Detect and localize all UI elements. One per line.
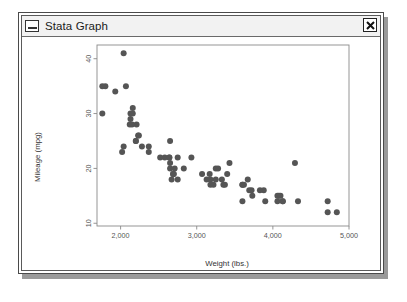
scatter-point — [226, 160, 232, 166]
x-tick-label: 3,000 — [188, 231, 206, 240]
y-tick-label: 10 — [84, 219, 93, 227]
scatter-point — [99, 111, 105, 117]
scatter-point — [130, 111, 136, 117]
scatter-point — [210, 182, 216, 188]
y-axis-ticks: 10203040 — [84, 55, 97, 228]
scatter-point — [280, 198, 286, 204]
y-tick-label: 20 — [84, 164, 93, 172]
scatter-point — [215, 165, 221, 171]
y-tick-label: 30 — [84, 110, 93, 118]
x-axis-ticks: 2,0003,0004,0005,000 — [112, 226, 358, 240]
title-bar[interactable]: Stata Graph — [22, 16, 380, 37]
scatter-point — [175, 176, 181, 182]
graph-canvas: Mileage (mpg) Weight (lbs.) 10203040 2,0… — [22, 37, 380, 270]
close-button[interactable] — [363, 18, 377, 32]
scatter-point — [325, 198, 331, 204]
scatter-point — [292, 160, 298, 166]
x-tick-label: 2,000 — [112, 231, 130, 240]
scatter-point — [334, 209, 340, 215]
x-axis-title: Weight (lbs.) — [205, 259, 249, 268]
scatter-point — [171, 171, 177, 177]
scatter-point — [136, 133, 142, 139]
scatter-point — [241, 182, 247, 188]
scatter-plot: Mileage (mpg) Weight (lbs.) 10203040 2,0… — [22, 37, 380, 270]
minimize-bar-glyph — [28, 27, 37, 29]
scatter-point — [213, 176, 219, 182]
scatter-point — [166, 154, 172, 160]
scatter-point — [157, 154, 163, 160]
scatter-point — [262, 198, 268, 204]
plot-frame — [97, 45, 349, 226]
window-title: Stata Graph — [45, 20, 108, 32]
scatter-point — [112, 89, 118, 95]
scatter-point — [123, 83, 129, 89]
window-inner-frame: Stata Graph Mileage (mpg) Weight (lbs.) … — [21, 15, 381, 271]
scatter-point — [204, 176, 210, 182]
scatter-point — [295, 198, 301, 204]
scatter-point — [199, 171, 205, 177]
y-axis-title: Mileage (mpg) — [33, 132, 42, 182]
scatter-point — [175, 154, 181, 160]
scatter-point — [129, 122, 135, 128]
scatter-point — [146, 149, 152, 155]
scatter-point — [325, 209, 331, 215]
scatter-point — [167, 160, 173, 166]
scatter-point — [130, 105, 136, 111]
scatter-point — [277, 193, 283, 199]
x-tick-label: 5,000 — [340, 231, 358, 240]
scatter-point — [249, 193, 255, 199]
scatter-point — [222, 182, 228, 188]
scatter-point — [133, 138, 139, 144]
scatter-point — [188, 154, 194, 160]
scatter-point — [99, 83, 105, 89]
scatter-point — [274, 198, 280, 204]
scatter-point — [181, 165, 187, 171]
scatter-point — [239, 198, 245, 204]
close-x-icon — [366, 21, 375, 30]
scatter-point — [249, 187, 255, 193]
scatter-point — [219, 176, 225, 182]
scatter-point — [245, 176, 251, 182]
scatter-point — [121, 50, 127, 56]
minimize-box-icon[interactable] — [25, 20, 39, 32]
scatter-point — [139, 143, 145, 149]
y-tick-label: 40 — [84, 55, 93, 63]
scatter-point — [146, 143, 152, 149]
scatter-point — [207, 171, 213, 177]
scatter-point — [121, 143, 127, 149]
scatter-point — [224, 171, 230, 177]
scatter-point — [172, 165, 178, 171]
x-tick-label: 4,000 — [264, 231, 282, 240]
scatter-point — [167, 138, 173, 144]
scatter-point — [128, 116, 134, 122]
scatter-point — [169, 176, 175, 182]
scatter-point — [257, 187, 263, 193]
screenshot-root: Stata Graph Mileage (mpg) Weight (lbs.) … — [0, 0, 407, 302]
scatter-point — [119, 149, 125, 155]
stata-graph-window: Stata Graph Mileage (mpg) Weight (lbs.) … — [18, 12, 384, 274]
data-points — [99, 50, 339, 215]
